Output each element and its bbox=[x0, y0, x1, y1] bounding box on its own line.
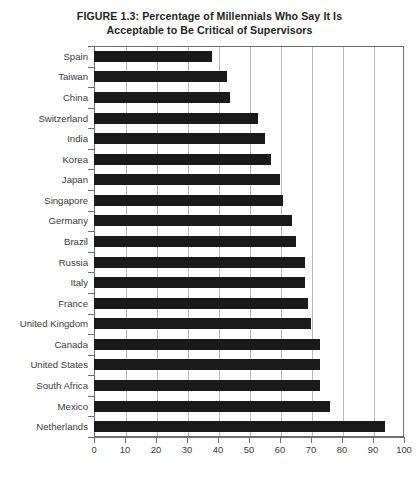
y-axis-label: Taiwan bbox=[0, 67, 88, 88]
x-axis-label: 30 bbox=[182, 444, 192, 456]
y-axis-tick bbox=[88, 67, 94, 68]
bar bbox=[94, 401, 330, 412]
x-axis-tick bbox=[156, 438, 157, 443]
x-axis-label: 20 bbox=[151, 444, 161, 456]
bar-row bbox=[94, 293, 404, 314]
x-axis-label: 0 bbox=[91, 444, 96, 456]
bar bbox=[94, 92, 230, 103]
bar-row bbox=[94, 67, 404, 88]
y-axis-label: India bbox=[0, 128, 88, 149]
x-axis-label: 100 bbox=[396, 444, 412, 456]
x-axis-labels: 0102030405060708090100 bbox=[94, 444, 405, 458]
bar bbox=[94, 339, 320, 350]
x-axis-tick bbox=[311, 438, 312, 443]
y-axis-tick bbox=[88, 314, 94, 315]
y-axis-tick bbox=[88, 334, 94, 335]
y-axis-tick bbox=[88, 355, 94, 356]
y-axis-tick bbox=[88, 252, 94, 253]
x-axis-tick bbox=[187, 438, 188, 443]
x-axis-tick bbox=[280, 438, 281, 443]
bar bbox=[94, 195, 283, 206]
y-axis-label: Japan bbox=[0, 169, 88, 190]
y-axis-tick bbox=[88, 396, 94, 397]
x-axis-label: 70 bbox=[306, 444, 316, 456]
x-axis-tick bbox=[342, 438, 343, 443]
bar bbox=[94, 154, 271, 165]
y-axis-label: Mexico bbox=[0, 396, 88, 417]
y-axis-label: Germany bbox=[0, 211, 88, 232]
bar-row bbox=[94, 46, 404, 67]
bar-row bbox=[94, 231, 404, 252]
figure-title: FIGURE 1.3: Percentage of Millennials Wh… bbox=[30, 9, 389, 37]
y-axis-tick bbox=[88, 272, 94, 273]
figure-title-line-1: FIGURE 1.3: Percentage of Millennials Wh… bbox=[30, 9, 389, 23]
x-axis-label: 10 bbox=[120, 444, 130, 456]
x-axis-label: 90 bbox=[368, 444, 378, 456]
x-axis-label: 60 bbox=[275, 444, 285, 456]
x-axis-tick bbox=[94, 438, 95, 443]
figure-container: FIGURE 1.3: Percentage of Millennials Wh… bbox=[0, 0, 419, 479]
bar-row bbox=[94, 272, 404, 293]
y-axis-label: South Africa bbox=[0, 375, 88, 396]
bar-row bbox=[94, 314, 404, 335]
y-axis-label: Netherlands bbox=[0, 416, 88, 437]
y-axis-tick bbox=[88, 190, 94, 191]
bar bbox=[94, 113, 258, 124]
bar-row bbox=[94, 169, 404, 190]
y-axis-label: Switzerland bbox=[0, 108, 88, 129]
x-axis-ticks bbox=[94, 438, 405, 443]
bar-row bbox=[94, 396, 404, 417]
bar bbox=[94, 380, 320, 391]
y-axis-tick bbox=[88, 375, 94, 376]
bar-row bbox=[94, 416, 404, 437]
y-axis-label: Spain bbox=[0, 46, 88, 67]
x-axis-tick bbox=[218, 438, 219, 443]
y-axis-tick bbox=[88, 211, 94, 212]
bar bbox=[94, 277, 305, 288]
bar bbox=[94, 298, 308, 309]
y-axis-tick bbox=[88, 293, 94, 294]
y-axis-tick bbox=[88, 46, 94, 47]
y-axis-tick bbox=[88, 231, 94, 232]
y-axis-label: Singapore bbox=[0, 190, 88, 211]
bar bbox=[94, 236, 296, 247]
y-axis-label: Korea bbox=[0, 149, 88, 170]
x-axis-tick bbox=[373, 438, 374, 443]
y-axis-labels: SpainTaiwanChinaSwitzerlandIndiaKoreaJap… bbox=[0, 46, 88, 437]
y-axis-label: Italy bbox=[0, 272, 88, 293]
x-axis-tick bbox=[125, 438, 126, 443]
bar bbox=[94, 174, 280, 185]
y-axis-tick bbox=[88, 416, 94, 417]
bar bbox=[94, 421, 385, 432]
y-axis-tick bbox=[88, 169, 94, 170]
y-axis-label: Brazil bbox=[0, 231, 88, 252]
y-axis-tick bbox=[88, 108, 94, 109]
bar-row bbox=[94, 355, 404, 376]
bar-row bbox=[94, 252, 404, 273]
x-axis-tick bbox=[249, 438, 250, 443]
bars-layer bbox=[94, 46, 404, 437]
bar-row bbox=[94, 190, 404, 211]
y-axis-label: France bbox=[0, 293, 88, 314]
bar bbox=[94, 133, 265, 144]
bar-row bbox=[94, 334, 404, 355]
bar-row bbox=[94, 149, 404, 170]
bar bbox=[94, 359, 320, 370]
x-axis-label: 80 bbox=[337, 444, 347, 456]
y-axis-tick bbox=[88, 128, 94, 129]
bar-row bbox=[94, 87, 404, 108]
x-axis-tick bbox=[404, 438, 405, 443]
bar-row bbox=[94, 375, 404, 396]
bar bbox=[94, 257, 305, 268]
y-axis-label: China bbox=[0, 87, 88, 108]
bar bbox=[94, 215, 292, 226]
figure-title-line-2: Acceptable to Be Critical of Supervisors bbox=[30, 23, 389, 37]
bar bbox=[94, 71, 227, 82]
y-axis-label: Russia bbox=[0, 252, 88, 273]
y-axis-label: United Kingdom bbox=[0, 314, 88, 335]
bar bbox=[94, 318, 311, 329]
x-axis-label: 50 bbox=[244, 444, 254, 456]
bar-row bbox=[94, 128, 404, 149]
y-axis-label: Canada bbox=[0, 334, 88, 355]
y-axis-label: United States bbox=[0, 355, 88, 376]
